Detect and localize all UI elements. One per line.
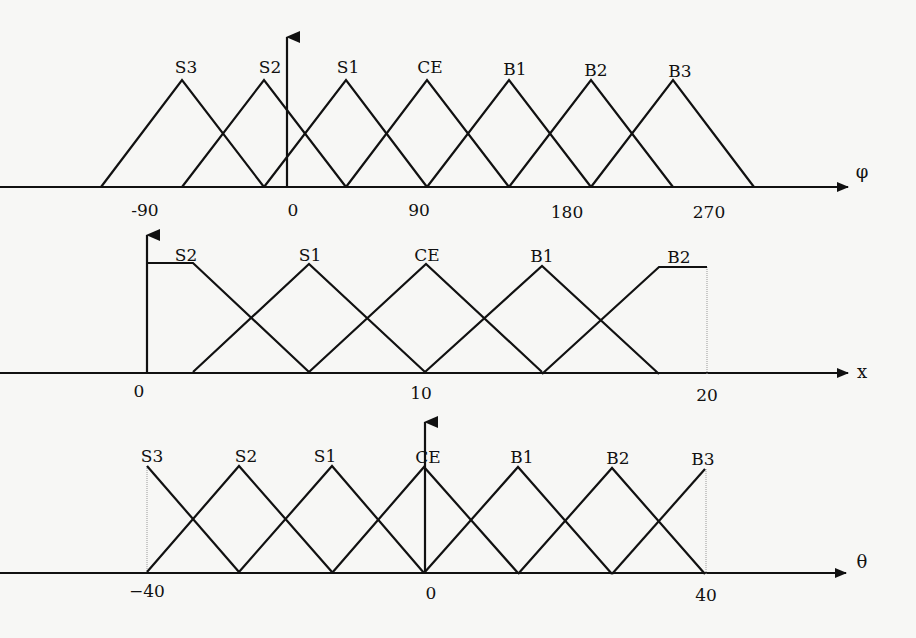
membership-set-s1 — [264, 80, 427, 187]
membership-set-b2 — [509, 80, 673, 187]
membership-set-b2 — [542, 267, 707, 374]
tick-label: 0 — [134, 381, 145, 401]
tick-label: 20 — [696, 385, 718, 405]
set-label-s2: S2 — [235, 446, 257, 466]
set-label-s2: S2 — [259, 57, 281, 77]
set-label-b3: B3 — [668, 61, 691, 81]
membership-set-b2 — [518, 468, 705, 574]
set-label-ce: CE — [417, 57, 442, 77]
set-label-s1: S1 — [337, 57, 359, 77]
theta-membership-chart: S3S2S1CEB1B2B3−40040θ — [0, 422, 867, 605]
set-label-ce: CE — [414, 245, 439, 265]
set-label-b2: B2 — [606, 448, 629, 468]
membership-set-s1 — [239, 466, 424, 573]
membership-functions-svg: S3S2S1CEB1B2B3-90090180270φ S2S1CEB1B201… — [0, 0, 916, 638]
membership-set-b3 — [591, 80, 754, 187]
tick-label: 90 — [408, 200, 430, 220]
set-label-b3: B3 — [691, 449, 714, 469]
phi-membership-chart: S3S2S1CEB1B2B3-90090180270φ — [0, 37, 868, 222]
membership-set-s2 — [182, 80, 346, 187]
tick-label: 10 — [410, 383, 432, 403]
membership-set-s2 — [147, 263, 309, 372]
set-label-b1: B1 — [503, 59, 526, 79]
set-label-b1: B1 — [530, 246, 553, 266]
membership-set-s3 — [101, 80, 264, 187]
membership-set-b1 — [425, 266, 659, 374]
fuzzy-membership-diagram: S3S2S1CEB1B2B3-90090180270φ S2S1CEB1B201… — [0, 0, 916, 638]
set-label-s3: S3 — [175, 57, 197, 77]
x-membership-chart: S2S1CEB1B201020x — [0, 235, 867, 405]
set-label-ce: CE — [415, 447, 440, 467]
set-label-b1: B1 — [510, 447, 533, 467]
set-label-s1: S1 — [314, 446, 336, 466]
membership-set-s1 — [193, 264, 425, 372]
tick-label: 40 — [695, 585, 717, 605]
tick-label: 270 — [693, 202, 725, 222]
phi-axis-label: φ — [856, 161, 869, 182]
set-label-s1: S1 — [299, 245, 321, 265]
tick-label: 0 — [426, 583, 437, 603]
membership-set-b1 — [424, 467, 612, 574]
membership-set-b1 — [427, 80, 591, 187]
set-label-s3: S3 — [141, 446, 163, 466]
tick-label: 180 — [551, 202, 583, 222]
membership-set-ce — [346, 80, 509, 187]
tick-label: 0 — [288, 200, 299, 220]
set-label-s2: S2 — [175, 245, 197, 265]
set-label-b2: B2 — [584, 60, 607, 80]
membership-set-s2 — [147, 466, 332, 572]
membership-set-ce — [309, 264, 542, 372]
tick-label: -90 — [131, 200, 158, 220]
theta-axis-label: θ — [857, 551, 868, 572]
tick-label: −40 — [129, 581, 165, 601]
x-axis-label: x — [857, 361, 867, 382]
set-label-b2: B2 — [667, 247, 690, 267]
